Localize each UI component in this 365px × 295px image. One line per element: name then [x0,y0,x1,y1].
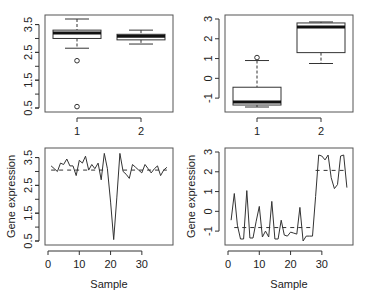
x-axis-title: Sample [270,278,307,290]
x-tick-label: 20 [104,258,116,270]
y-axis-title: Gene expression [185,155,197,238]
y-tick-label: 0 [202,208,214,214]
x-tick-label: 1 [254,125,260,137]
x-tick-label: 0 [225,258,231,270]
x-tick-label: 2 [318,125,324,137]
y-tick-label: 3.5 [22,17,34,32]
x-tick-label: 10 [253,258,265,270]
panel-bottom-left: 0.51.52.53.50102030SampleGene expression [5,148,173,290]
y-tick-label: -1 [202,226,214,236]
y-tick-label: 3 [202,149,214,155]
outlier-point [255,55,260,60]
y-tick-label: 3.5 [22,150,34,165]
boxplot-1 [53,19,101,109]
boxplot-1 [233,55,281,107]
boxplot-2 [297,22,345,64]
x-axis-title: Sample [90,278,127,290]
y-tick-label: 2 [202,36,214,42]
y-tick-label: -1 [202,93,214,103]
y-tick-label: 1 [202,55,214,61]
y-axis-title: Gene expression [5,155,17,238]
boxplot-2 [117,30,165,44]
y-tick-label: 3 [202,16,214,22]
x-tick-label: 0 [45,258,51,270]
x-tick-label: 30 [316,258,328,270]
x-tick-label: 10 [73,258,85,270]
panel-top-left: 0.51.52.53.512 [22,15,173,137]
x-tick-label: 20 [284,258,296,270]
outlier-point [75,104,80,109]
x-tick-label: 2 [138,125,144,137]
expression-series-line [231,155,347,241]
x-tick-label: 30 [136,258,148,270]
y-tick-label: 2 [202,169,214,175]
y-tick-label: 2.5 [22,178,34,193]
y-tick-label: 0.5 [22,100,34,115]
y-tick-label: 0.5 [22,233,34,248]
x-tick-label: 1 [74,125,80,137]
y-tick-label: 2.5 [22,45,34,60]
panel-top-right: -1012312 [202,15,353,137]
y-tick-label: 1 [202,188,214,194]
panel-bottom-right: -101230102030SampleGene expression [185,148,353,290]
plot-frame [45,15,173,112]
outlier-point [75,58,80,63]
expression-series-line [51,153,167,239]
y-tick-label: 1.5 [22,206,34,221]
y-tick-label: 0 [202,75,214,81]
figure: 0.51.52.53.512-10123120.51.52.53.5010203… [0,0,365,295]
y-tick-label: 1.5 [22,73,34,88]
